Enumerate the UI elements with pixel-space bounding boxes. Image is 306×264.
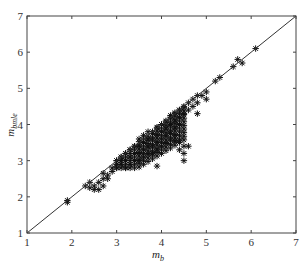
asterisk-marker [190, 103, 196, 109]
x-tick-label: 1 [24, 236, 30, 248]
asterisk-marker [194, 100, 200, 106]
asterisk-marker [185, 143, 191, 149]
x-tick-label: 3 [114, 236, 120, 248]
x-axis-label: mb [152, 248, 164, 263]
asterisk-marker [181, 150, 187, 156]
y-tick-label: 2 [18, 191, 24, 203]
x-tick-label: 6 [248, 236, 254, 248]
y-tick-label: 6 [18, 46, 24, 58]
y-tick-label: 3 [18, 155, 24, 167]
asterisk-marker [96, 179, 102, 185]
scatter-chart: 1234567 1234567 mb mbmle [0, 0, 306, 264]
asterisk-marker [194, 110, 200, 116]
y-tick-label: 7 [18, 10, 24, 22]
x-tick-label: 2 [69, 236, 75, 248]
asterisk-marker [181, 157, 187, 163]
x-tick-label: 7 [293, 236, 299, 248]
asterisk-marker [154, 163, 160, 169]
asterisk-marker [203, 96, 209, 102]
reference-line-y-equals-x [27, 16, 296, 233]
asterisk-marker [96, 186, 102, 192]
asterisk-marker [100, 183, 106, 189]
y-axis-label: mbmle [4, 113, 19, 137]
y-tick-label: 5 [18, 82, 24, 94]
x-tick-label: 4 [159, 236, 165, 248]
y-tick-label: 1 [18, 227, 24, 239]
x-tick-label: 5 [204, 236, 210, 248]
